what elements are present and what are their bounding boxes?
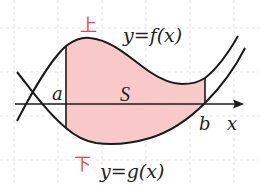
upper-curve-label: y=f(x) <box>122 24 182 46</box>
lower-marker-label: 下 <box>74 154 91 174</box>
a-label: a <box>52 83 63 104</box>
upper-marker-label: 上 <box>80 15 97 35</box>
area-S-label: S <box>120 83 130 105</box>
b-label: b <box>199 113 211 134</box>
lower-curve-label: y=g(x) <box>99 160 164 182</box>
area-between-curves-diagram: 上 y=f(x) a S b x 下 y=g(x) <box>0 0 260 186</box>
area-S-fill <box>66 38 205 144</box>
x-axis-label: x <box>227 113 237 134</box>
